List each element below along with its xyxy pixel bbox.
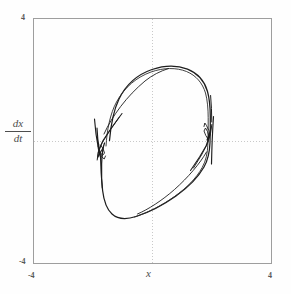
- phase-portrait-figure: 4 -4 -4 4 x dx dt: [0, 0, 291, 294]
- x-axis-label: x: [146, 268, 151, 279]
- y-axis-max-tick-label: 4: [21, 14, 25, 22]
- x-axis-max-tick-label: 4: [268, 272, 272, 280]
- y-axis-label-numerator: dx: [4, 118, 32, 131]
- y-axis-label-denominator: dt: [4, 132, 32, 145]
- x-axis-min-tick-label: -4: [28, 272, 34, 280]
- y-axis-label: dx dt: [4, 118, 32, 145]
- y-axis-min-tick-label: -4: [19, 258, 25, 266]
- plot-canvas: [0, 0, 291, 294]
